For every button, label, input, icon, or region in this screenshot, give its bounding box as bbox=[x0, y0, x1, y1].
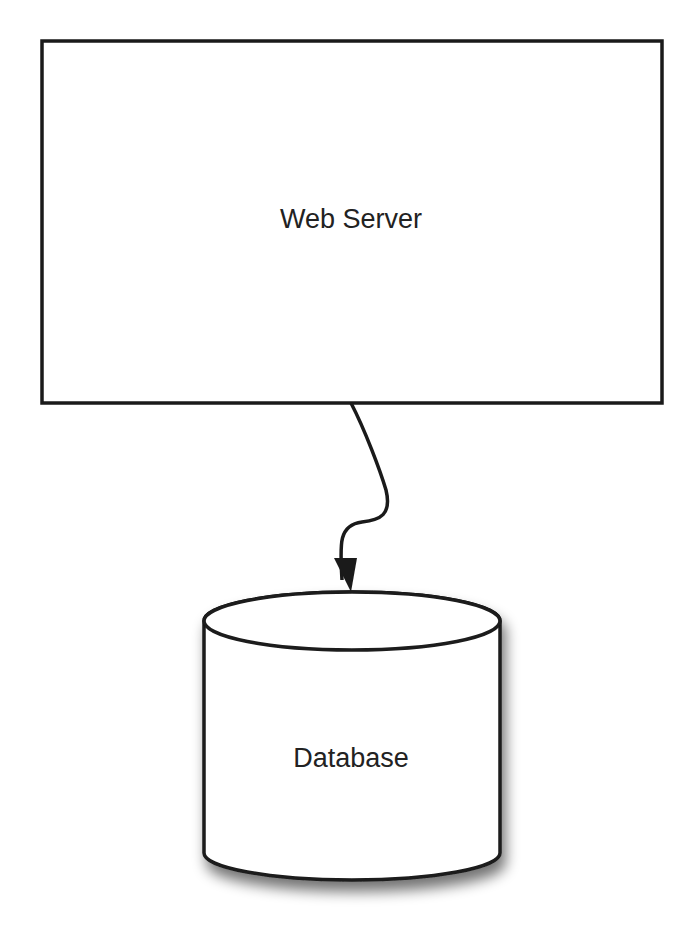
web-server-label: Web Server bbox=[280, 204, 422, 234]
architecture-diagram: Web Server Database bbox=[0, 0, 690, 926]
arrowhead-icon bbox=[334, 558, 357, 592]
database-top bbox=[204, 592, 500, 650]
database-label: Database bbox=[293, 743, 409, 773]
database-node[interactable] bbox=[204, 592, 500, 880]
connector-edge[interactable] bbox=[334, 403, 388, 592]
web-server-node[interactable]: Web Server bbox=[42, 41, 662, 403]
connector-line bbox=[341, 403, 388, 580]
